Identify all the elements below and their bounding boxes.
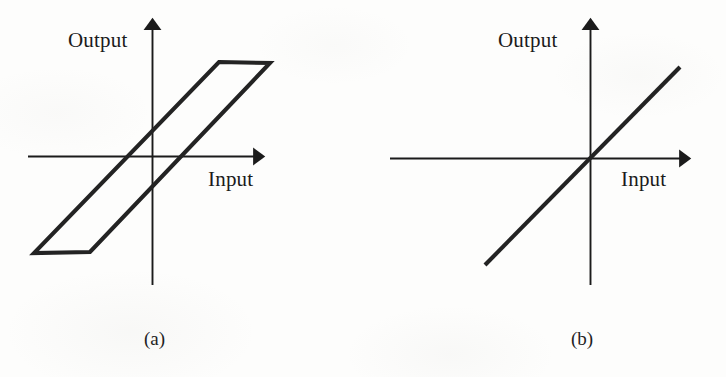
figure-page: Output Input (a) Output Input (b) (0, 0, 726, 377)
figure-panel-b: Output Input (b) (363, 0, 726, 377)
x-axis-label-a: Input (208, 167, 253, 192)
hysteresis-plot-a (0, 0, 363, 377)
x-axis-label-b: Input (621, 167, 666, 192)
linear-response-line-b (485, 67, 680, 265)
linear-plot-b (363, 0, 726, 377)
figure-panel-a: Output Input (a) (0, 0, 363, 377)
caption-b: (b) (571, 328, 593, 350)
caption-a: (a) (144, 328, 165, 350)
y-axis-label-a: Output (68, 28, 128, 53)
y-axis-label-b: Output (498, 28, 558, 53)
